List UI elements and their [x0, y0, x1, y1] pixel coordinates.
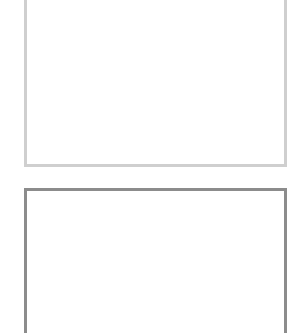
top-panel-frame — [24, 0, 287, 167]
canvas — [0, 0, 301, 333]
bottom-panel-frame — [24, 188, 287, 333]
